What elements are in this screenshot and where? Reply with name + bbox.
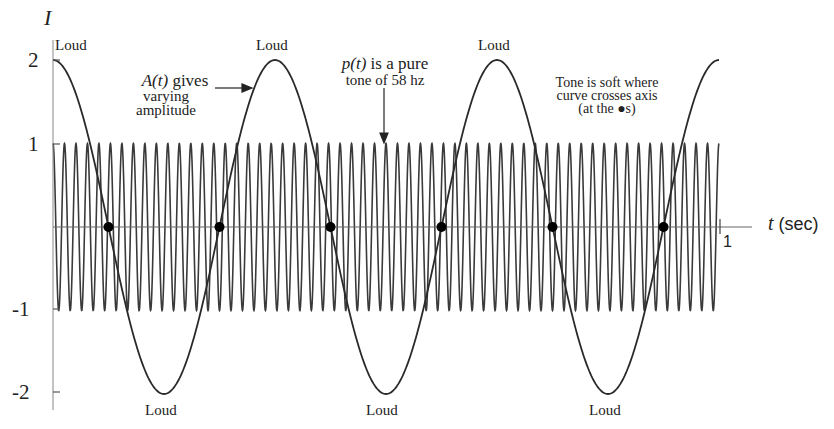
- loud-label-top-2: Loud: [256, 38, 288, 53]
- envelope-text-2: varying: [107, 89, 225, 103]
- loud-label-top-1: Loud: [55, 38, 87, 53]
- carrier-text-1: is a pure: [371, 54, 429, 73]
- loud-label-bottom-1: Loud: [145, 403, 177, 418]
- y-tick-1: 1: [28, 132, 39, 157]
- envelope-annotation: A(t) gives varying amplitude: [125, 73, 225, 117]
- y-tick-neg1: -1: [12, 297, 30, 322]
- loud-label-top-3: Loud: [478, 38, 510, 53]
- loud-label-bottom-3: Loud: [589, 403, 621, 418]
- soft-annotation: Tone is soft where curve crosses axis (a…: [540, 76, 674, 115]
- y-axis-label: I: [44, 10, 51, 25]
- carrier-annotation: p(t) is a pure tone of 58 hz: [330, 56, 440, 88]
- x-tick-label-1: 1: [723, 234, 732, 249]
- carrier-symbol: p(t): [342, 54, 367, 73]
- soft-text-3: (at the ●s): [540, 102, 674, 115]
- x-axis-label: t (sec): [768, 216, 819, 232]
- carrier-text-2: tone of 58 hz: [330, 72, 440, 88]
- y-tick-2: 2: [28, 48, 39, 73]
- envelope-text-3: amplitude: [107, 103, 225, 117]
- loud-label-bottom-2: Loud: [366, 403, 398, 418]
- y-tick-neg2: -2: [12, 380, 30, 405]
- x-axis-unit: (sec): [774, 214, 819, 234]
